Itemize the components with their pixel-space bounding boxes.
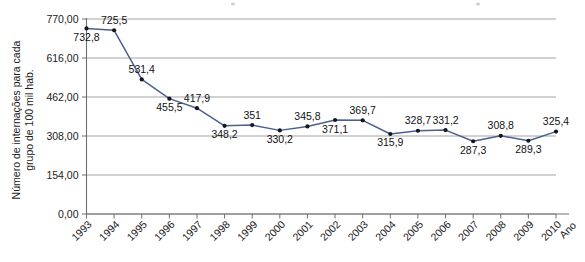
x-tick-label: 1995 xyxy=(124,218,149,243)
x-tick-label: 1994 xyxy=(97,218,122,243)
data-point-label: 725,5 xyxy=(101,14,127,26)
data-point-label: 455,5 xyxy=(156,101,182,113)
x-axis-title: Ano xyxy=(557,219,579,241)
x-tick-label: 1999 xyxy=(235,218,260,243)
data-point xyxy=(361,118,365,122)
x-tick-label: 2007 xyxy=(456,218,481,243)
x-tick-label: 1998 xyxy=(207,218,232,243)
data-point-label: 330,2 xyxy=(267,133,293,145)
data-point-label: 325,4 xyxy=(543,115,569,127)
x-tick-label: 2006 xyxy=(428,218,453,243)
x-tick-label: 2004 xyxy=(373,218,398,243)
data-point xyxy=(554,129,558,133)
x-tick-label: 2008 xyxy=(483,218,508,243)
data-point-label: 371,1 xyxy=(322,123,348,135)
x-axis xyxy=(87,214,570,219)
data-point xyxy=(278,128,282,132)
data-point-label: 351 xyxy=(243,109,261,121)
data-point-label: 331,2 xyxy=(432,114,458,126)
data-point xyxy=(443,128,447,132)
x-tick-label: 2003 xyxy=(345,218,370,243)
line-chart: 0,00154,00308,00462,00616,00770,00 19931… xyxy=(0,0,585,262)
y-tick-label: 616,00 xyxy=(46,52,78,64)
data-point-label: 315,9 xyxy=(377,136,403,148)
y-tick-label: 154,00 xyxy=(46,169,78,181)
data-point-label: 732,8 xyxy=(73,31,99,43)
y-tick-label: 308,00 xyxy=(46,130,78,142)
y-tick-label: 462,00 xyxy=(46,91,78,103)
data-point xyxy=(388,132,392,136)
data-point xyxy=(250,123,254,127)
data-point xyxy=(471,139,475,143)
data-point-label: 345,8 xyxy=(294,110,320,122)
x-tick-label: 2002 xyxy=(317,218,342,243)
x-tick-label: 2005 xyxy=(400,218,425,243)
data-point xyxy=(84,26,88,30)
x-tick-labels: 1993199419951996199719981999200020012002… xyxy=(69,218,564,243)
data-point-label: 348,2 xyxy=(211,128,237,140)
data-point xyxy=(526,139,530,143)
data-point xyxy=(167,97,171,101)
data-point xyxy=(112,28,116,32)
x-tick-label: 1996 xyxy=(152,218,177,243)
data-point-labels: 732,8725,5531,4455,5417,9348,2351330,234… xyxy=(73,14,569,156)
y-tick-labels: 0,00154,00308,00462,00616,00770,00 xyxy=(46,13,78,220)
data-point xyxy=(222,124,226,128)
data-point-label: 417,9 xyxy=(184,92,210,104)
data-point xyxy=(305,124,309,128)
gridlines xyxy=(87,19,557,214)
data-point-label: 289,3 xyxy=(515,143,541,155)
data-point xyxy=(416,129,420,133)
data-point-label: 531,4 xyxy=(129,63,155,75)
chart-page: 0,00154,00308,00462,00616,00770,00 19931… xyxy=(0,0,585,262)
scan-artifacts xyxy=(231,2,480,5)
y-axis xyxy=(82,18,87,214)
data-point-label: 369,7 xyxy=(350,104,376,116)
data-point xyxy=(140,77,144,81)
data-point xyxy=(333,118,337,122)
data-point xyxy=(499,134,503,138)
y-tick-label: 0,00 xyxy=(58,208,79,220)
data-point-label: 308,8 xyxy=(488,119,514,131)
data-point-label: 287,3 xyxy=(460,144,486,156)
data-point-label: 328,7 xyxy=(405,114,431,126)
x-tick-label: 2000 xyxy=(262,218,287,243)
data-point xyxy=(195,106,199,110)
x-tick-label: 2001 xyxy=(290,218,315,243)
x-tick-label: 1993 xyxy=(69,218,94,243)
y-axis-title: Número de internações para cadagrupo de … xyxy=(10,40,35,199)
x-tick-label: 2009 xyxy=(511,218,536,243)
x-tick-label: 1997 xyxy=(179,218,204,243)
y-tick-label: 770,00 xyxy=(46,13,78,25)
